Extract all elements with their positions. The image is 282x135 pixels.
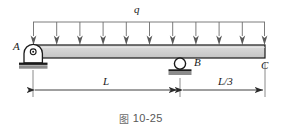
load-arrows (34, 22, 265, 36)
dimension-label-L: L (103, 76, 109, 87)
dimension-label-L-over-3: L/3 (218, 76, 233, 87)
beam-member (33, 45, 265, 58)
point-label-a: A (13, 41, 20, 52)
load-arrow-heads (31, 36, 268, 46)
figure-marker-glyph: 图 (119, 111, 129, 126)
beam-diagram-figure: q A B C L L/3 图10-25 (0, 0, 282, 135)
support-b-roller (169, 58, 192, 75)
point-label-c: C (261, 60, 268, 71)
beam-body (33, 45, 265, 58)
point-label-b: B (194, 57, 201, 68)
support-a-base-plate (19, 63, 48, 65)
figure-number: 10-25 (133, 112, 163, 124)
support-b-base-plate (169, 69, 192, 71)
figure-caption: 图10-25 (0, 111, 282, 126)
roller-circle (174, 58, 185, 69)
support-b-ground-hatch (169, 72, 192, 75)
hinge-center-dot (32, 51, 34, 53)
distributed-load-group (31, 22, 268, 45)
support-a-ground-hatch (19, 65, 48, 68)
load-label-q: q (134, 4, 140, 15)
